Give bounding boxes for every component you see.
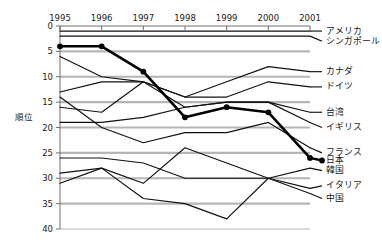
x-tick-label-2001: 2001 <box>299 13 321 23</box>
chart-root: 1995199619971998199920002001 05101520253… <box>0 0 382 251</box>
data-marker <box>265 109 271 115</box>
y-tick-label-15: 15 <box>42 97 53 107</box>
y-tick-label-35: 35 <box>42 199 53 209</box>
data-marker <box>57 43 63 49</box>
x-tick-label-1998: 1998 <box>174 13 196 23</box>
y-tick-label-0: 0 <box>48 21 53 31</box>
data-marker <box>99 43 105 49</box>
y-tick-label-25: 25 <box>42 148 53 158</box>
x-tick-label-1997: 1997 <box>133 13 155 23</box>
y-tick-label-5: 5 <box>48 46 53 56</box>
rank-line-chart: 1995199619971998199920002001 05101520253… <box>0 0 382 251</box>
y-tick-label-30: 30 <box>42 173 53 183</box>
y-tick-label-20: 20 <box>42 123 53 133</box>
y-tick-label-40: 40 <box>42 224 53 234</box>
data-marker <box>224 104 230 110</box>
y-axis-title: 順位 <box>15 112 33 122</box>
x-tick-label-2000: 2000 <box>258 13 280 23</box>
y-tick-label-10: 10 <box>42 72 53 82</box>
x-tick-label-1999: 1999 <box>216 13 238 23</box>
x-tick-label-1996: 1996 <box>91 13 113 23</box>
data-marker <box>140 69 146 75</box>
data-marker <box>182 114 188 120</box>
chart-background <box>0 0 382 251</box>
